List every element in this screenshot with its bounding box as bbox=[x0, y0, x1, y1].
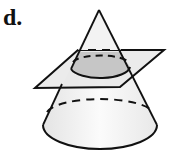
cone-upper-part bbox=[78, 10, 121, 50]
cone-plane-diagram bbox=[0, 0, 180, 161]
